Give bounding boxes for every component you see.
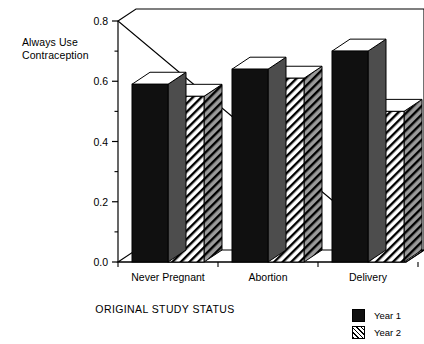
bar-chart: Always Use Contraception ORIGINAL STUDY … — [0, 0, 424, 344]
y-axis-tick-label: 0.4 — [82, 136, 108, 148]
y-axis-tick-label: 0.6 — [82, 75, 108, 87]
bar-year-1 — [332, 39, 386, 262]
bar-year-1 — [232, 57, 286, 262]
legend-item: Year 2 — [352, 325, 401, 340]
y-axis-tick-label: 0.0 — [82, 256, 108, 268]
legend-label: Year 2 — [374, 327, 401, 338]
legend-swatch-year-2-icon — [352, 326, 365, 339]
plot-area — [0, 0, 424, 344]
y-axis-tick-label: 0.8 — [82, 15, 108, 27]
x-axis-tick-label: Abortion — [248, 271, 287, 283]
legend-item: Year 1 — [352, 308, 401, 323]
x-axis-tick-label: Never Pregnant — [131, 271, 205, 283]
legend-swatch-year-1-icon — [352, 309, 365, 322]
x-axis-tick-label: Delivery — [349, 271, 387, 283]
legend-label: Year 1 — [374, 310, 401, 321]
legend: Year 1 Year 2 — [352, 308, 401, 342]
bar-year-1 — [132, 72, 186, 262]
y-axis-tick-label: 0.2 — [82, 196, 108, 208]
